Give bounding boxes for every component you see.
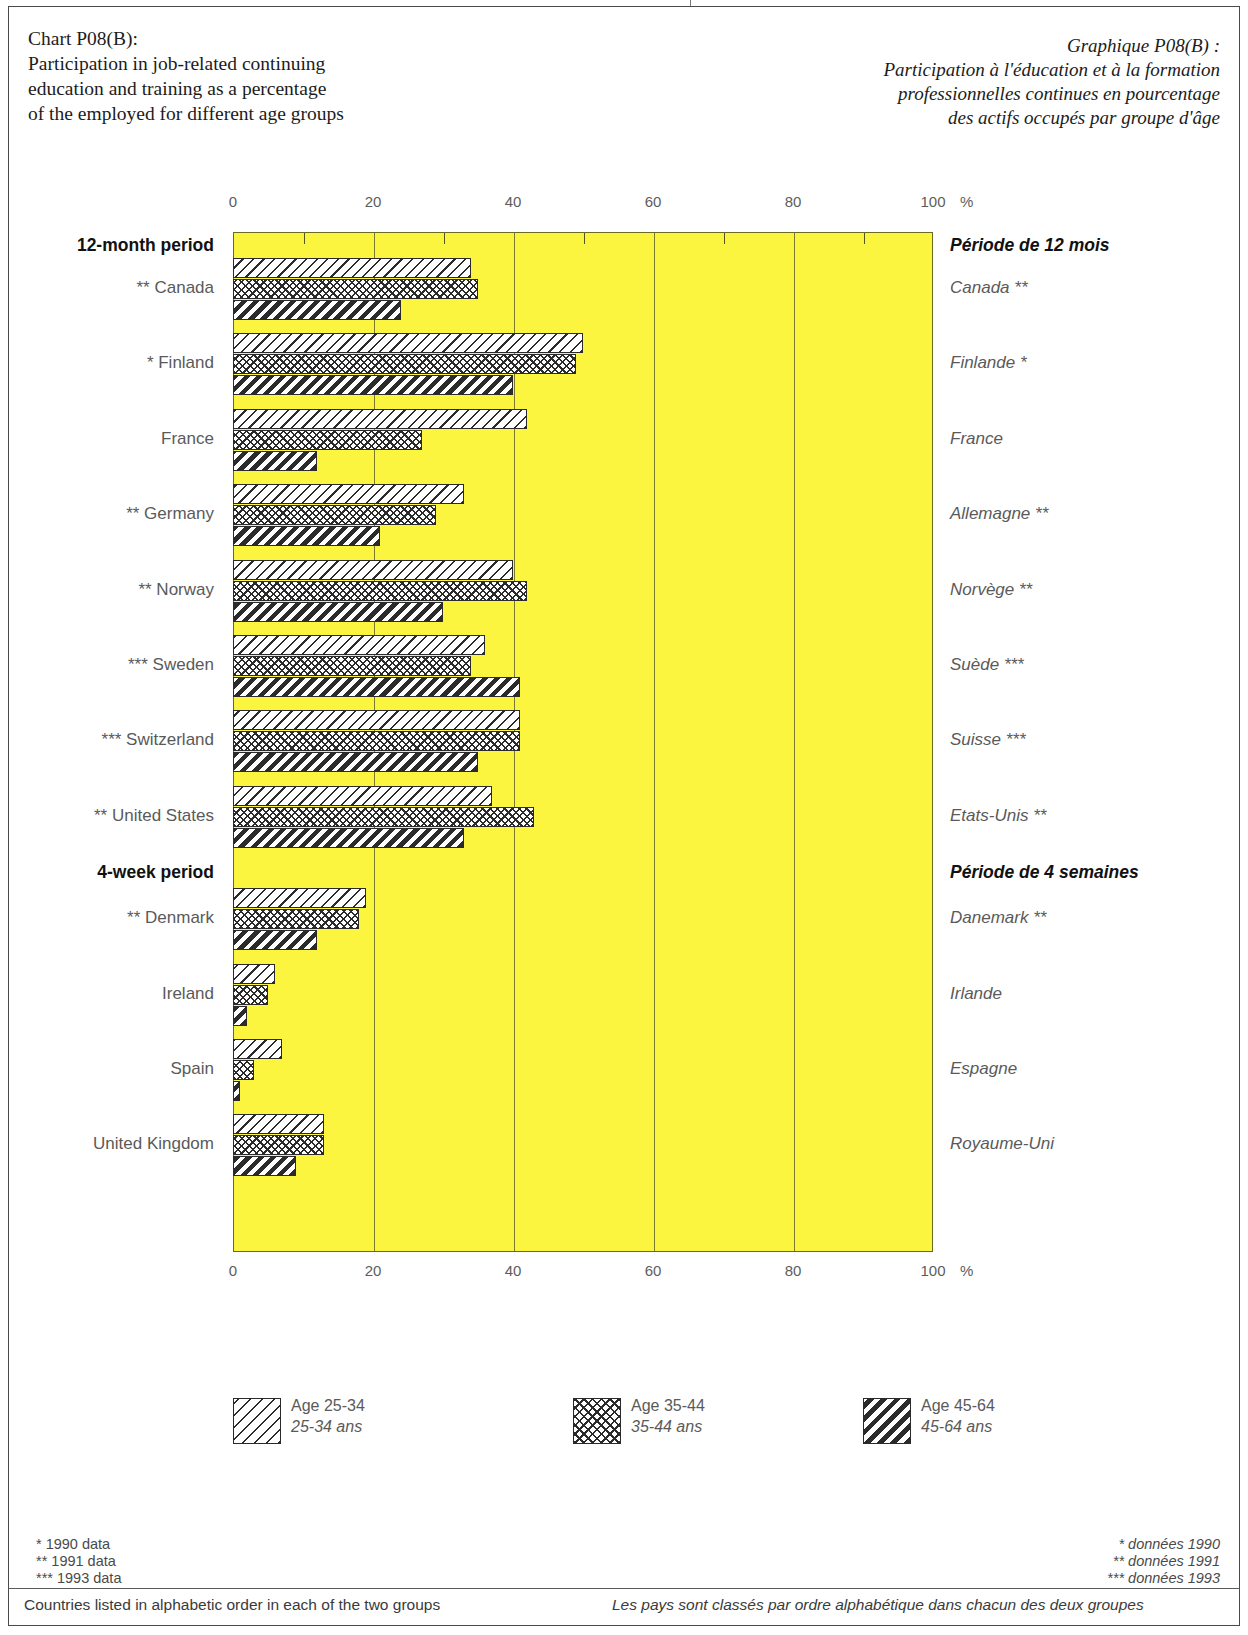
bar-spain-a35 [233,1060,254,1080]
country-label-right: Royaume-Uni [950,1134,1054,1154]
legend-label-english: Age 45-64 [921,1397,995,1415]
country-label-left: ** Canada [136,278,214,298]
x-tick-label-60: 60 [645,1262,662,1279]
bar-ireland-a45 [233,1006,247,1026]
country-label-right: Etats-Unis ** [950,806,1046,826]
country-label-right: Danemark ** [950,908,1046,928]
legend-label-french: 35-44 ans [631,1418,705,1436]
bar-united-states-a45 [233,828,464,848]
footnote-note-french: Les pays sont classés par ordre alphabét… [612,1596,1144,1614]
country-label-right: Espagne [950,1059,1017,1079]
x-tick-label-80: 80 [785,193,802,210]
bar-france-a25 [233,409,527,429]
country-label-right: Suède *** [950,655,1024,675]
x-tick-label-20: 20 [365,1262,382,1279]
bar-finland-a45 [233,375,513,395]
bar-norway-a45 [233,602,443,622]
bar-germany-a25 [233,484,464,504]
bar-united-states-a35 [233,807,534,827]
footnote-line-french: *** données 1993 [1107,1570,1220,1587]
country-label-left: United Kingdom [93,1134,214,1154]
minor-tick-10 [304,233,305,244]
country-label-left: *** Sweden [128,655,214,675]
group-label-right: Période de 12 mois [950,235,1110,256]
bar-denmark-a45 [233,930,317,950]
bar-united-states-a25 [233,786,492,806]
bar-france-a35 [233,430,422,450]
bar-ireland-a25 [233,964,275,984]
chart-legend: Age 25-3425-34 ansAge 35-4435-44 ansAge … [233,1398,993,1458]
country-label-left: * Finland [147,353,214,373]
country-label-right: Finlande * [950,353,1027,373]
footnote-line-french: ** données 1991 [1107,1553,1220,1570]
x-tick-label-100: 100 [920,193,945,210]
country-label-left: ** Denmark [127,908,214,928]
bar-switzerland-a35 [233,731,520,751]
legend-text: Age 25-3425-34 ans [291,1397,365,1436]
minor-tick-50 [584,233,585,244]
chart-area: 020406080100% 020406080100% 12-month per… [0,0,1248,1635]
x-tick-label-0: 0 [229,193,237,210]
x-tick-label-100: 100 [920,1262,945,1279]
bar-united-kingdom-a45 [233,1156,296,1176]
country-label-right: Irlande [950,984,1002,1004]
bar-finland-a35 [233,354,576,374]
country-label-left: France [161,429,214,449]
x-tick-label-40: 40 [505,1262,522,1279]
bar-united-kingdom-a35 [233,1135,324,1155]
legend-swatch-diagonal-thick [863,1398,911,1444]
x-axis-unit: % [960,193,973,210]
country-label-right: Norvège ** [950,580,1032,600]
legend-swatch-cross-hatch [573,1398,621,1444]
footnote-line-english: * 1990 data [36,1536,121,1553]
country-label-left: Ireland [162,984,214,1004]
footnote-line-english: ** 1991 data [36,1553,121,1570]
bar-france-a45 [233,451,317,471]
x-tick-label-20: 20 [365,193,382,210]
footnote-line-french: * données 1990 [1107,1536,1220,1553]
bar-norway-a25 [233,560,513,580]
x-tick-label-80: 80 [785,1262,802,1279]
bar-united-kingdom-a25 [233,1114,324,1134]
bar-germany-a45 [233,526,380,546]
bar-spain-a45 [233,1081,240,1101]
footnotes-french: * données 1990** données 1991*** données… [1107,1536,1220,1587]
footnote-line-english: *** 1993 data [36,1570,121,1587]
gridline-80 [794,233,795,1251]
legend-label-french: 45-64 ans [921,1418,995,1436]
group-label-left: 4-week period [97,862,214,883]
bar-sweden-a45 [233,677,520,697]
legend-label-english: Age 35-44 [631,1397,705,1415]
minor-tick-90 [864,233,865,244]
country-label-right: France [950,429,1003,449]
bar-norway-a35 [233,581,527,601]
legend-swatch-diagonal-thin [233,1398,281,1444]
bar-canada-a35 [233,279,478,299]
bar-sweden-a25 [233,635,485,655]
country-label-left: ** United States [94,806,214,826]
minor-tick-70 [724,233,725,244]
legend-label-french: 25-34 ans [291,1418,365,1436]
country-label-left: ** Norway [138,580,214,600]
x-tick-label-60: 60 [645,193,662,210]
bar-finland-a25 [233,333,583,353]
bar-canada-a45 [233,300,401,320]
bar-canada-a25 [233,258,471,278]
country-label-left: *** Switzerland [102,730,214,750]
gridline-60 [654,233,655,1251]
minor-tick-30 [444,233,445,244]
footnote-divider [8,1588,1240,1589]
bar-spain-a25 [233,1039,282,1059]
legend-text: Age 45-6445-64 ans [921,1397,995,1436]
country-label-right: Suisse *** [950,730,1026,750]
bar-germany-a35 [233,505,436,525]
bar-denmark-a35 [233,909,359,929]
x-tick-label-40: 40 [505,193,522,210]
bar-ireland-a35 [233,985,268,1005]
country-label-left: ** Germany [126,504,214,524]
country-label-right: Canada ** [950,278,1028,298]
footnote-note-english: Countries listed in alphabetic order in … [24,1596,440,1614]
bar-switzerland-a45 [233,752,478,772]
bar-switzerland-a25 [233,710,520,730]
country-label-right: Allemagne ** [950,504,1048,524]
